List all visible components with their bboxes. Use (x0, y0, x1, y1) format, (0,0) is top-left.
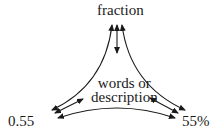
center-label-line1: words or (91, 76, 158, 90)
node-decimal: 0.55 (8, 114, 34, 129)
node-words-description: words or description (91, 76, 158, 104)
node-fraction: fraction (97, 3, 144, 18)
node-percent: 55% (182, 114, 210, 129)
center-label-line2: description (91, 90, 158, 104)
arrow-decimal-percent (58, 108, 175, 118)
